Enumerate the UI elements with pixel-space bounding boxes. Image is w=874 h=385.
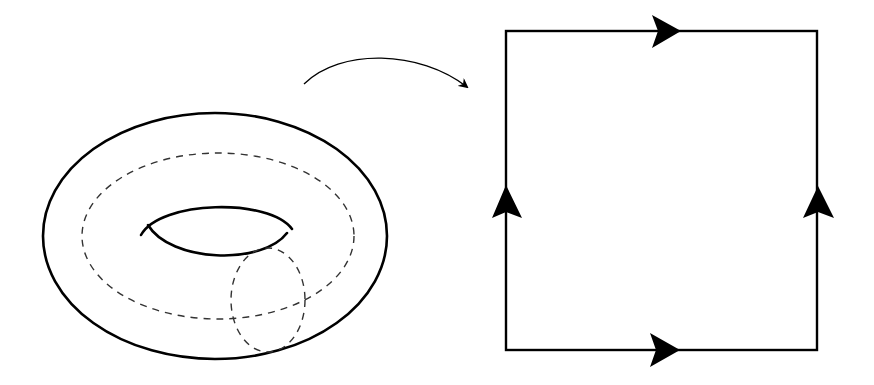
torus-longitude-loop [82, 153, 354, 319]
torus [43, 113, 387, 359]
torus-meridian-loop [231, 248, 305, 352]
torus-hole-upper-arc [141, 207, 292, 235]
torus-hole-lower-arc [148, 225, 287, 255]
torus-outer-outline [43, 113, 387, 359]
right-edge-arrow-icon [803, 186, 834, 218]
diagram-canvas [0, 0, 874, 385]
fundamental-square [492, 15, 834, 367]
torus-fundamental-polygon-figure [0, 0, 874, 385]
mapping-arrow-icon [304, 58, 467, 87]
square-outline [506, 31, 817, 350]
